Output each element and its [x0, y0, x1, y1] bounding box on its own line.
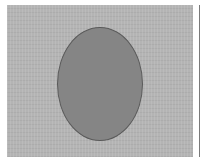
right-edge-line — [199, 5, 200, 157]
gray-ellipse-shape — [57, 27, 143, 141]
